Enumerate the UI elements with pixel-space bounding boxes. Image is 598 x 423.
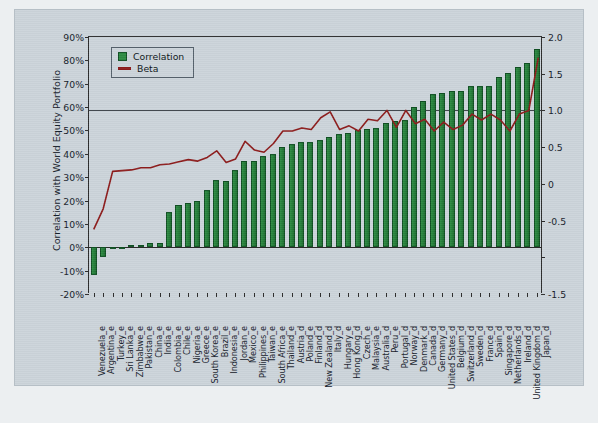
x-tick-label: Indonesia_e [229, 326, 239, 374]
y-tick-label: 0% [38, 242, 84, 253]
legend-item-correlation: Correlation [118, 51, 184, 62]
chart-legend: Correlation Beta [111, 47, 194, 78]
y-tick-mark [85, 130, 89, 131]
y2-tick-label: 0 [548, 178, 554, 189]
x-tick-label: South Korea_e [210, 326, 220, 383]
chart-panel: Correlation with World Equity Portfolio … [14, 9, 584, 386]
y-tick-label: 40% [38, 148, 84, 159]
x-tick-label: Finland_d [314, 326, 324, 364]
legend-label-correlation: Correlation [133, 51, 184, 62]
y-tick-mark [85, 224, 89, 225]
y-tick-label: 80% [38, 55, 84, 66]
x-tick-label: Germany_d [437, 326, 447, 372]
plot-area: Correlation with World Equity Portfolio … [88, 36, 542, 293]
y2-tick-label: 2.0 [548, 32, 563, 43]
x-tick-label: Belgium_d [456, 326, 466, 368]
y2-tick-label: 1.5 [548, 68, 563, 79]
x-tick-label: Peru_e [390, 326, 400, 353]
y-tick-mark [85, 177, 89, 178]
y2-tick-mark [541, 74, 545, 75]
y2-tick-label: 0.5 [548, 142, 563, 153]
x-tick-label: Sweden_d [475, 326, 485, 367]
x-tick-label: Pakistan_e [144, 326, 154, 368]
y2-tick-mark [541, 37, 545, 38]
y-tick-label: 30% [38, 172, 84, 183]
x-tick-label: Denmark_d [419, 326, 429, 372]
y-tick-mark [85, 37, 89, 38]
y2-tick-mark [541, 184, 545, 185]
y-tick-mark [85, 60, 89, 61]
y-tick-mark [85, 247, 89, 248]
y-tick-label: -20% [38, 289, 84, 300]
screenshot-page: Correlation with World Equity Portfolio … [0, 0, 598, 423]
y2-tick-label: -1.5 [548, 289, 566, 300]
y-tick-mark [85, 84, 89, 85]
y2-tick-label: 1.0 [548, 105, 563, 116]
x-tick-label: Argentina_e [106, 326, 116, 374]
y2-tick-mark [541, 257, 545, 258]
x-tick-label: Hong Kong_d [352, 326, 362, 379]
x-tick-label: Nigeria_e [192, 326, 202, 364]
legend-swatch-line-icon [118, 67, 131, 69]
y-tick-mark [85, 154, 89, 155]
y-tick-label: 20% [38, 195, 84, 206]
y-tick-label: 60% [38, 102, 84, 113]
x-tick-label: Taiwan_e [267, 326, 277, 362]
y-tick-label: 50% [38, 125, 84, 136]
x-tick-label: Italy_d [333, 326, 343, 352]
beta-polyline [94, 58, 539, 230]
x-tick-label: Netherlands_d [513, 326, 523, 384]
y-tick-label: 10% [38, 218, 84, 229]
x-tick-label: Spain_d [494, 326, 504, 357]
legend-item-beta: Beta [118, 63, 184, 74]
x-tick-label: Chile_e [182, 326, 192, 355]
legend-label-beta: Beta [137, 63, 158, 74]
x-tick-label: Japan_d [541, 326, 551, 357]
y-tick-label: -10% [38, 265, 84, 276]
x-tick-label: Norway_d [409, 326, 419, 366]
x-tick-label: Mexico_e [248, 326, 258, 363]
y2-tick-mark [541, 110, 545, 111]
x-tick-label: Thailand_e [286, 326, 296, 369]
x-tick-label: Sri Lanka_e [125, 326, 135, 372]
x-tick-label: India_e [163, 326, 173, 355]
legend-swatch-bar-icon [118, 52, 127, 61]
y-tick-mark [85, 294, 89, 295]
y2-tick-mark [541, 147, 545, 148]
y-tick-mark [85, 201, 89, 202]
y-tick-label: 90% [38, 32, 84, 43]
y-tick-label: 70% [38, 78, 84, 89]
y2-tick-mark [541, 221, 545, 222]
y2-tick-label: -0.5 [548, 215, 566, 226]
y-tick-mark [85, 271, 89, 272]
x-tick-label: Malaysia_e [371, 326, 381, 370]
y-tick-mark [85, 107, 89, 108]
y2-tick-mark [541, 294, 545, 295]
